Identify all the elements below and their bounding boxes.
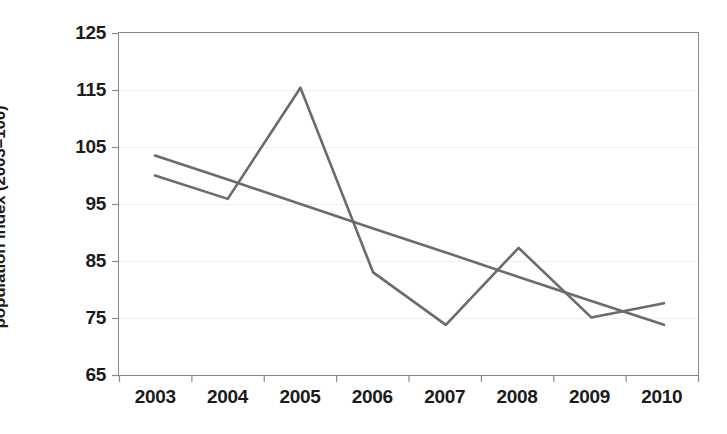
x-axis-tick-marks [120, 375, 699, 382]
y-axis-tick-marks [112, 34, 119, 376]
population-index-series [155, 88, 664, 325]
plot-area [0, 0, 727, 434]
gridlines [119, 91, 698, 319]
line-chart-figure: population index (2003=100) 125115105958… [0, 0, 727, 434]
